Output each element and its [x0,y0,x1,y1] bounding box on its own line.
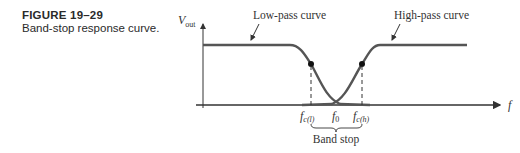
low-pass-curve [203,45,370,105]
band-stop-brace [311,124,362,132]
x-axis-label: f [508,98,513,112]
high-pass-label: High-pass curve [394,9,469,22]
low-pass-annotation: Low-pass curve [251,9,326,40]
high-pass-curve [302,45,467,105]
tick-fcl: fc(l) [300,109,315,124]
band-stop-diagram: Vout f Low-pass curve High-pass curve fc… [0,0,520,153]
y-axis: Vout [178,13,203,108]
low-pass-label: Low-pass curve [253,9,326,22]
high-pass-annotation: High-pass curve [392,9,469,40]
band-stop-label: Band stop [313,133,360,146]
tick-f0: f0 [332,109,339,124]
tick-fch: fc(h) [353,109,370,124]
y-axis-label: Vout [178,13,196,29]
